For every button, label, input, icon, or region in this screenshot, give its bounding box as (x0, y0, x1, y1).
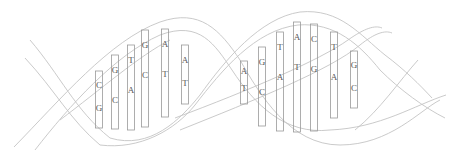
base-pair: GC (112, 55, 119, 129)
base-pair: AT (182, 45, 189, 104)
base-pairs: CGGCTAGCATATATGCTAATCGTAGC (96, 22, 358, 132)
base-top: G (142, 40, 149, 50)
base-top: G (259, 57, 266, 67)
base-bottom: A (128, 85, 135, 95)
dna-helix-diagram: CGGCTAGCATATATGCTAATCGTAGC (0, 0, 452, 155)
base-pair: GC (351, 51, 358, 108)
base-bottom: C (351, 83, 357, 93)
base-top: G (351, 60, 358, 70)
base-top: T (277, 42, 283, 52)
base-pair: AT (294, 22, 301, 132)
strand-a-outer (14, 18, 440, 147)
base-pair: CG (96, 71, 103, 128)
base-bottom: C (259, 87, 265, 97)
base-top: A (162, 39, 169, 49)
base-bottom: T (241, 83, 247, 93)
base-bottom: T (182, 78, 188, 88)
base-bottom: T (162, 69, 168, 79)
base-top: C (96, 80, 102, 90)
base-bottom: G (96, 103, 103, 113)
base-pair: GC (142, 30, 149, 127)
base-pair: TA (128, 45, 135, 130)
base-bottom: C (112, 95, 118, 105)
base-top: G (112, 65, 119, 75)
base-top: C (311, 34, 317, 44)
strand-b-inner (25, 25, 445, 146)
base-pair: TA (277, 32, 284, 131)
base-bottom: C (142, 70, 148, 80)
base-pair: CG (311, 24, 318, 131)
base-pair: TA (331, 32, 338, 118)
strand-b-outer (30, 12, 432, 141)
base-pair: AT (162, 29, 169, 117)
strand-d-left (60, 40, 170, 120)
helix-strands (14, 12, 446, 150)
base-bottom: A (277, 72, 284, 82)
base-top: A (182, 55, 189, 65)
base-bottom: A (331, 72, 338, 82)
base-bottom: T (294, 62, 300, 72)
base-pair: GC (259, 47, 266, 126)
base-top: T (128, 55, 134, 65)
base-bottom: G (311, 64, 318, 74)
base-pair: AT (241, 61, 248, 104)
base-top: T (331, 42, 337, 52)
strand-c-right-inner (180, 32, 392, 130)
base-top: A (294, 32, 301, 42)
base-top: A (241, 66, 248, 76)
